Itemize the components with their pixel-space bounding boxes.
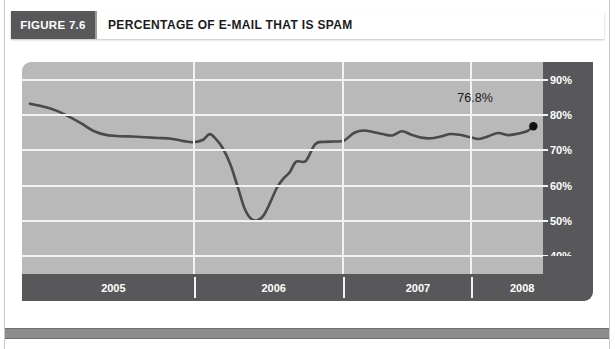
y-tick-mark [543,149,548,151]
figure-header: FIGURE 7.6 PERCENTAGE OF E-MAIL THAT IS … [11,11,604,39]
y-tick-mark [543,79,548,81]
page-rule-right [609,0,610,349]
x-axis: 2005200620072008 [22,274,593,301]
y-tick-label: 60% [550,180,572,192]
x-tick-mark [194,277,196,298]
y-tick-label: 50% [550,215,572,227]
x-tick-label: 2007 [406,274,430,301]
figure-tag-box: FIGURE 7.6 [11,11,95,39]
gridline-horizontal [22,149,543,151]
x-tick-label: 2006 [261,274,285,301]
footer-bar [5,328,609,339]
gridline-vertical [342,62,344,274]
gridline-horizontal [22,255,543,257]
gridline-vertical [193,62,195,274]
endpoint-marker [529,122,537,130]
figure-container: FIGURE 7.6 PERCENTAGE OF E-MAIL THAT IS … [0,0,615,349]
gridline-horizontal [22,220,543,222]
page-rule-left [4,0,5,349]
x-tick-mark [343,277,345,298]
x-tick-label: 2008 [510,274,534,301]
y-tick-mark [543,114,548,116]
y-tick-mark [543,185,548,187]
y-tick-label: 90% [550,74,572,86]
x-tick-label: 2005 [101,274,125,301]
gridline-horizontal [22,79,543,81]
figure-title: PERCENTAGE OF E-MAIL THAT IS SPAM [108,11,353,39]
series-path-spam [30,104,533,221]
y-axis: 40%50%60%70%80%90% [543,62,593,274]
endpoint-value-label: 76.8% [457,91,492,105]
x-tick-mark [471,277,473,298]
figure-tag-label: FIGURE 7.6 [20,19,86,31]
chart-panel: 76.8% 40%50%60%70%80%90% 200520062007200… [11,44,604,298]
gridline-horizontal [22,114,543,116]
axis-corner-fill [543,256,593,274]
y-tick-mark [543,220,548,222]
y-tick-label: 70% [550,144,572,156]
gridline-horizontal [22,185,543,187]
y-tick-label: 80% [550,109,572,121]
header-divider [95,11,97,39]
